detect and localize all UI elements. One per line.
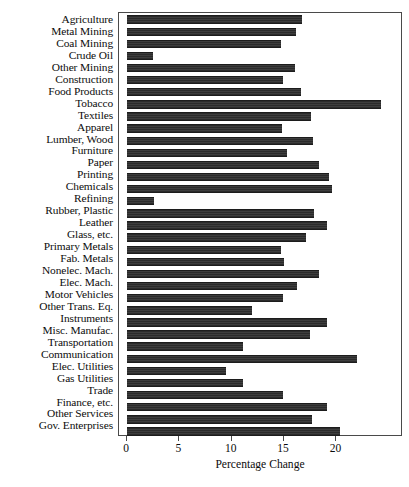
- bar: [127, 367, 226, 375]
- bar-row: [119, 244, 401, 256]
- category-axis-labels: AgricultureMetal MiningCoal MiningCrude …: [0, 14, 118, 432]
- bar: [127, 427, 340, 435]
- x-axis-title: Percentage Change: [118, 458, 402, 471]
- category-label: Crude Oil: [0, 50, 118, 62]
- category-label: Rubber, Plastic: [0, 205, 118, 217]
- plot-area: [118, 12, 402, 436]
- bar: [127, 282, 297, 290]
- category-label: Paper: [0, 157, 118, 169]
- bar-row: [119, 135, 401, 147]
- bar: [127, 197, 154, 205]
- bar-row: [119, 256, 401, 268]
- bar-row: [119, 86, 401, 98]
- bar: [127, 355, 357, 363]
- bar: [127, 40, 281, 48]
- bar: [127, 306, 252, 314]
- category-label: Coal Mining: [0, 38, 118, 50]
- bar-row: [119, 329, 401, 341]
- category-label: Other Trans. Eq.: [0, 301, 118, 313]
- bar-row: [119, 280, 401, 292]
- bar-row: [119, 353, 401, 365]
- category-label: Elec. Mach.: [0, 277, 118, 289]
- category-label: Transportation: [0, 337, 118, 349]
- category-label: Other Services: [0, 408, 118, 420]
- bar-row: [119, 268, 401, 280]
- bar: [127, 233, 306, 241]
- category-label: Other Mining: [0, 62, 118, 74]
- bar: [127, 330, 310, 338]
- bar-row: [119, 220, 401, 232]
- bar-row: [119, 123, 401, 135]
- bar-row: [119, 99, 401, 111]
- bar: [127, 137, 313, 145]
- category-label: Glass, etc.: [0, 229, 118, 241]
- category-label: Nonelec. Mach.: [0, 265, 118, 277]
- bar: [127, 379, 243, 387]
- category-label: Construction: [0, 74, 118, 86]
- x-axis-tick-labels: 05101520: [118, 441, 402, 457]
- bar: [127, 209, 314, 217]
- bar-row: [119, 50, 401, 62]
- category-label: Communication: [0, 349, 118, 361]
- bar-row: [119, 196, 401, 208]
- bar-row: [119, 62, 401, 74]
- category-label: Furniture: [0, 145, 118, 157]
- bar-row: [119, 208, 401, 220]
- bar: [127, 76, 283, 84]
- bar: [127, 173, 329, 181]
- bar: [127, 112, 311, 120]
- bar-row: [119, 159, 401, 171]
- bar-row: [119, 317, 401, 329]
- bar: [127, 391, 283, 399]
- bars-container: [119, 13, 401, 435]
- bar: [127, 28, 296, 36]
- category-label: Chemicals: [0, 181, 118, 193]
- category-label: Apparel: [0, 122, 118, 134]
- bar: [127, 52, 153, 60]
- x-tick-label: 10: [225, 441, 237, 455]
- bar: [127, 415, 312, 423]
- bar: [127, 100, 381, 108]
- bar-row: [119, 183, 401, 195]
- bar: [127, 88, 301, 96]
- bar-row: [119, 305, 401, 317]
- bar: [127, 294, 283, 302]
- bar-chart: AgricultureMetal MiningCoal MiningCrude …: [0, 0, 409, 487]
- bar-row: [119, 377, 401, 389]
- bar: [127, 161, 319, 169]
- category-label: Agriculture: [0, 14, 118, 26]
- bar-row: [119, 111, 401, 123]
- category-label: Misc. Manufac.: [0, 325, 118, 337]
- x-tick-label: 5: [175, 441, 181, 455]
- category-label: Textiles: [0, 110, 118, 122]
- bar-row: [119, 26, 401, 38]
- category-label: Tobacco: [0, 98, 118, 110]
- bar-row: [119, 414, 401, 426]
- bar-row: [119, 171, 401, 183]
- category-label: Trade: [0, 385, 118, 397]
- bar: [127, 403, 327, 411]
- category-label: Motor Vehicles: [0, 289, 118, 301]
- bar: [127, 124, 282, 132]
- bar-row: [119, 147, 401, 159]
- bar-row: [119, 401, 401, 413]
- category-label: Printing: [0, 169, 118, 181]
- x-tick-label: 15: [277, 441, 289, 455]
- bar-row: [119, 14, 401, 26]
- category-label: Elec. Utilities: [0, 361, 118, 373]
- category-label: Primary Metals: [0, 241, 118, 253]
- x-tick-label: 20: [330, 441, 342, 455]
- category-label: Fab. Metals: [0, 253, 118, 265]
- bar: [127, 15, 302, 23]
- bar-row: [119, 232, 401, 244]
- category-label: Lumber, Wood: [0, 134, 118, 146]
- category-label: Instruments: [0, 313, 118, 325]
- bar-row: [119, 74, 401, 86]
- bar-row: [119, 389, 401, 401]
- bar-row: [119, 38, 401, 50]
- bar-row: [119, 365, 401, 377]
- category-label: Leather: [0, 217, 118, 229]
- bar: [127, 246, 281, 254]
- bar: [127, 64, 295, 72]
- bar: [127, 149, 287, 157]
